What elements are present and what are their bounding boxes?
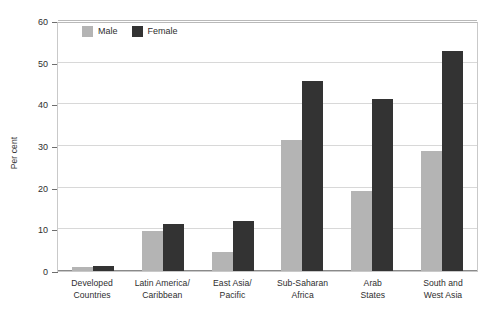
bar-group bbox=[267, 23, 337, 271]
x-axis-category-label: DevelopedCountries bbox=[57, 278, 127, 301]
x-axis-label-line: West Asia bbox=[408, 290, 478, 302]
bar-female bbox=[372, 99, 393, 271]
bar-female bbox=[302, 81, 323, 271]
x-axis-category-label: ArabStates bbox=[338, 278, 408, 301]
bar-male bbox=[351, 191, 372, 271]
y-axis-tick-label: 40 bbox=[8, 101, 48, 110]
x-axis-label-line: East Asia/ bbox=[197, 278, 267, 290]
x-axis-label-line: Pacific bbox=[197, 290, 267, 302]
legend-swatch-icon bbox=[82, 26, 93, 37]
bar-chart: Per cent 0102030405060 DevelopedCountrie… bbox=[0, 0, 493, 317]
legend-label: Female bbox=[148, 27, 178, 36]
chart-legend: MaleFemale bbox=[82, 26, 178, 37]
bar-group bbox=[128, 23, 198, 271]
y-axis-tick-label: 30 bbox=[8, 143, 48, 152]
x-axis-category-label: Sub-SaharanAfrica bbox=[268, 278, 338, 301]
legend-item: Female bbox=[132, 26, 178, 37]
bar-female bbox=[442, 51, 463, 271]
plot-area bbox=[57, 22, 478, 272]
x-axis-label-line: States bbox=[338, 290, 408, 302]
bar-group bbox=[198, 23, 268, 271]
x-axis-label-line: Africa bbox=[268, 290, 338, 302]
bar-male bbox=[281, 140, 302, 271]
x-axis-label-line: Caribbean bbox=[127, 290, 197, 302]
bar-male bbox=[212, 252, 233, 271]
x-axis-label-line: Sub-Saharan bbox=[268, 278, 338, 290]
x-axis-category-label: East Asia/Pacific bbox=[197, 278, 267, 301]
y-axis-title: Per cent bbox=[9, 118, 19, 188]
bar-male bbox=[142, 231, 163, 271]
y-axis-tick-label: 60 bbox=[8, 18, 48, 27]
x-axis-label-line: Countries bbox=[57, 290, 127, 302]
bar-female bbox=[93, 266, 114, 271]
bar-group bbox=[58, 23, 128, 271]
x-axis-label-line: South and bbox=[408, 278, 478, 290]
x-axis-category-label: Latin America/Caribbean bbox=[127, 278, 197, 301]
gridline-60 bbox=[58, 20, 477, 21]
x-axis-category-label: South andWest Asia bbox=[408, 278, 478, 301]
y-axis-tick-label: 20 bbox=[8, 184, 48, 193]
legend-item: Male bbox=[82, 26, 118, 37]
bar-female bbox=[233, 221, 254, 271]
y-axis-tick-label: 0 bbox=[8, 268, 48, 277]
legend-swatch-icon bbox=[132, 26, 143, 37]
y-axis-tick-label: 50 bbox=[8, 59, 48, 68]
bar-groups bbox=[58, 23, 477, 271]
bar-female bbox=[163, 224, 184, 271]
bar-group bbox=[407, 23, 477, 271]
bar-group bbox=[337, 23, 407, 271]
y-axis-tick-label: 10 bbox=[8, 226, 48, 235]
legend-label: Male bbox=[98, 27, 118, 36]
x-axis-label-line: Arab bbox=[338, 278, 408, 290]
x-axis-labels: DevelopedCountriesLatin America/Caribbea… bbox=[57, 278, 478, 301]
bar-male bbox=[72, 267, 93, 271]
bar-male bbox=[421, 151, 442, 271]
x-axis-label-line: Latin America/ bbox=[127, 278, 197, 290]
x-axis-label-line: Developed bbox=[57, 278, 127, 290]
